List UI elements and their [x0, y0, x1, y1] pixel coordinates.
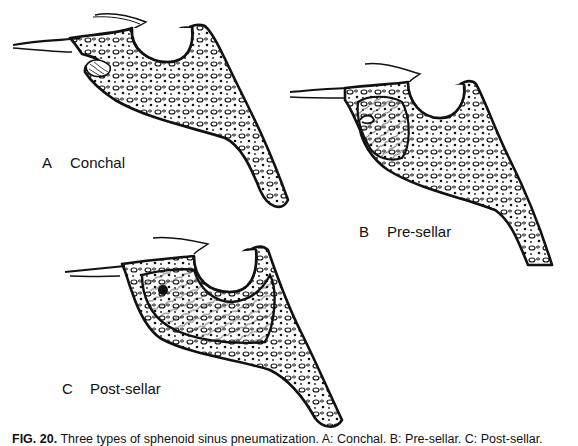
- figure-number: FIG. 20.: [12, 432, 57, 446]
- conchal-sphenoid-illustration: [0, 0, 300, 215]
- panel-letter: A: [42, 154, 70, 171]
- caption-text: Three types of sphenoid sinus pneumatiza…: [60, 432, 542, 446]
- panel-name: Post-sellar: [90, 380, 161, 397]
- panel-name: Conchal: [70, 154, 125, 171]
- panel-name: Pre-sellar: [387, 223, 451, 240]
- panel-letter: C: [62, 380, 90, 397]
- panel-a-label: AConchal: [42, 154, 125, 171]
- figure-caption: FIG. 20. Three types of sphenoid sinus p…: [12, 432, 543, 446]
- panel-c-label: CPost-sellar: [62, 380, 161, 397]
- panel-b-label: BPre-sellar: [359, 223, 451, 240]
- panel-c-post-sellar: CPost-sellar: [60, 230, 370, 430]
- post-sellar-sphenoid-illustration: [60, 230, 370, 430]
- panel-a-conchal: AConchal: [0, 0, 300, 215]
